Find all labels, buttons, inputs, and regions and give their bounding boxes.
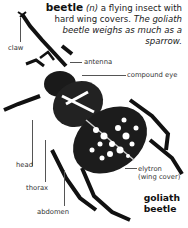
label-elytron-name: elytron bbox=[138, 165, 180, 173]
label-claw: claw bbox=[8, 44, 23, 52]
compound-eye-leader-line bbox=[82, 75, 126, 76]
label-elytron-note: (wing cover) bbox=[138, 173, 180, 181]
thorax-leader-line bbox=[45, 140, 46, 182]
headword: beetle bbox=[46, 1, 84, 13]
illustration-caption: goliath beetle bbox=[144, 192, 180, 214]
label-thorax: thorax bbox=[26, 184, 48, 192]
head-leader-line bbox=[32, 120, 33, 166]
label-head: head bbox=[16, 161, 33, 169]
dictionary-entry: beetle (n) a flying insect with hard win… bbox=[32, 2, 182, 47]
label-abdomen: abdomen bbox=[37, 208, 69, 216]
label-elytron: elytron (wing cover) bbox=[138, 165, 180, 181]
part-of-speech: (n) bbox=[86, 3, 98, 13]
elytron-leader-line bbox=[125, 168, 137, 169]
label-compound-eye: compound eye bbox=[127, 71, 177, 79]
caption-line-2: beetle bbox=[144, 203, 180, 214]
caption-line-1: goliath bbox=[144, 192, 180, 203]
label-antenna: antenna bbox=[84, 58, 112, 66]
abdomen-leader-line bbox=[64, 170, 65, 206]
antenna-leader-line bbox=[70, 62, 82, 63]
claw-leader-line bbox=[20, 18, 21, 42]
